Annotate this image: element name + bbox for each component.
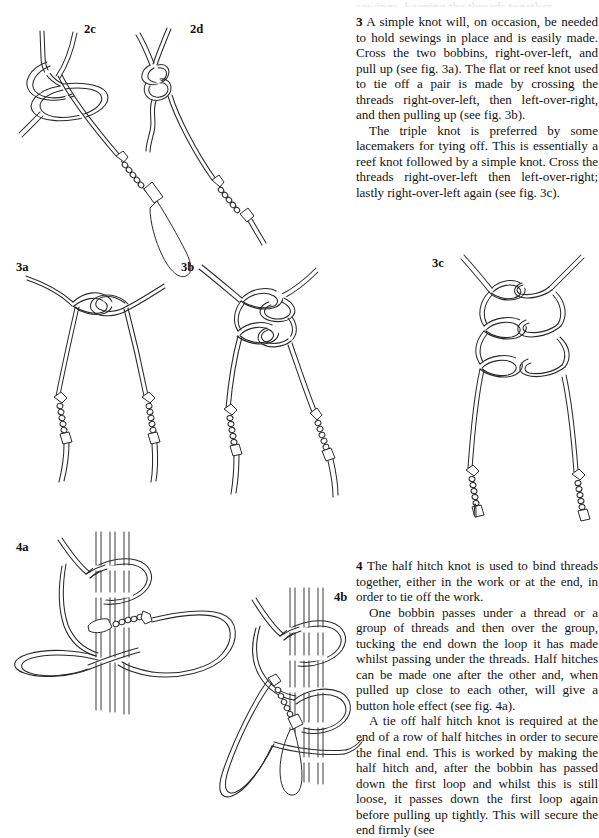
paragraph-4c: A tie off half hitch knot is required at…: [356, 713, 598, 837]
paragraph-4: 4 The half hitch knot is used to bind th…: [356, 558, 598, 605]
paragraph-3: 3 A simple knot will, on occasion, be ne…: [356, 14, 598, 123]
figure-4b-drawing: [220, 588, 362, 797]
paragraph-4-number: 4: [356, 558, 363, 573]
paragraph-3b: The triple knot is preferred by some lac…: [356, 123, 598, 201]
figure-label-4a: 4a: [16, 540, 29, 555]
paragraph-4b: One bobbin passes under a thread or a gr…: [356, 605, 598, 714]
figure-3a-drawing: [26, 276, 165, 482]
figure-label-2d: 2d: [190, 22, 203, 37]
figure-2d-drawing: [136, 28, 266, 245]
figure-label-2c: 2c: [84, 22, 96, 37]
figure-3c-drawing: [461, 255, 590, 521]
figure-label-3c: 3c: [432, 256, 444, 271]
text-column-lower: 4 The half hitch knot is used to bind th…: [356, 558, 598, 838]
figure-label-4b: 4b: [334, 590, 347, 605]
paragraph-3-body: A simple knot will, on occasion, be need…: [356, 14, 598, 122]
figure-2c-drawing: [19, 31, 191, 277]
paragraph-3-number: 3: [356, 14, 363, 29]
text-column-upper: 3 A simple knot will, on occasion, be ne…: [356, 14, 598, 201]
figure-3b-drawing: [199, 265, 338, 497]
figure-4a-drawing: [15, 532, 236, 714]
figure-label-3a: 3a: [16, 260, 29, 275]
paragraph-4-body: The half hitch knot is used to bind thre…: [356, 558, 598, 604]
ghost-text-fragment: sewings, keeping the threads together: [356, 0, 598, 7]
figure-label-3b: 3b: [181, 260, 194, 275]
